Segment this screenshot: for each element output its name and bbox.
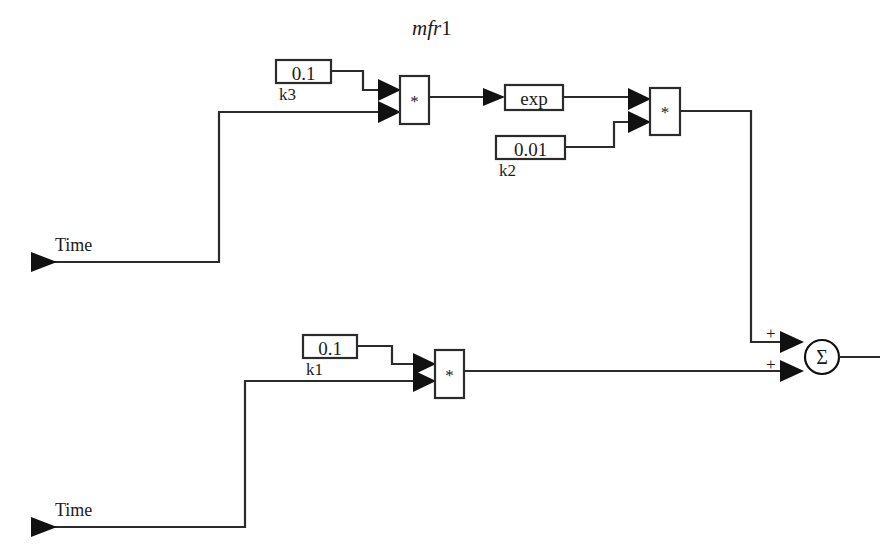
sum-input2-arrowhead [780, 360, 804, 382]
k1-const-value: 0.1 [303, 339, 357, 358]
time-input-lower-label: Time [55, 501, 92, 519]
sum-input1-arrowhead [780, 331, 804, 353]
exp-block-label: exp [505, 89, 563, 108]
product-upper-right-input1-arrowhead [628, 88, 651, 110]
time-input-upper-label: Time [55, 236, 92, 254]
exp-input-arrowhead [483, 88, 505, 106]
wire-k2-to-product-right [565, 122, 631, 147]
product-upper-right-input2-arrowhead [628, 111, 651, 133]
sum-sign-bottom: + [766, 356, 776, 373]
wire-k3-to-product [331, 71, 381, 90]
product-upper-right-glyph: * [650, 104, 680, 121]
time-upper-input-arrowhead [31, 252, 57, 272]
product-lower-input2-arrowhead [413, 370, 436, 392]
sum-sign-top: + [766, 325, 776, 342]
k2-const-value: 0.01 [496, 140, 565, 159]
sum-block-glyph: Σ [807, 347, 837, 367]
k1-const-label: k1 [306, 361, 323, 378]
product-upper-left-input2-arrowhead [378, 101, 401, 123]
product-upper-left-glyph: * [400, 93, 429, 110]
product-lower-glyph: * [435, 367, 464, 384]
k3-const-label: k3 [279, 86, 296, 103]
k3-const-value: 0.1 [276, 64, 331, 83]
block-diagram-canvas: mfr1 [0, 0, 882, 554]
wire-k1-to-product-lower [357, 346, 416, 364]
diagram-wiring [0, 0, 882, 554]
wire-product-right-to-sum [680, 111, 783, 342]
time-lower-input-arrowhead [31, 517, 57, 537]
product-upper-left-input1-arrowhead [378, 79, 401, 101]
k2-const-label: k2 [499, 162, 516, 179]
